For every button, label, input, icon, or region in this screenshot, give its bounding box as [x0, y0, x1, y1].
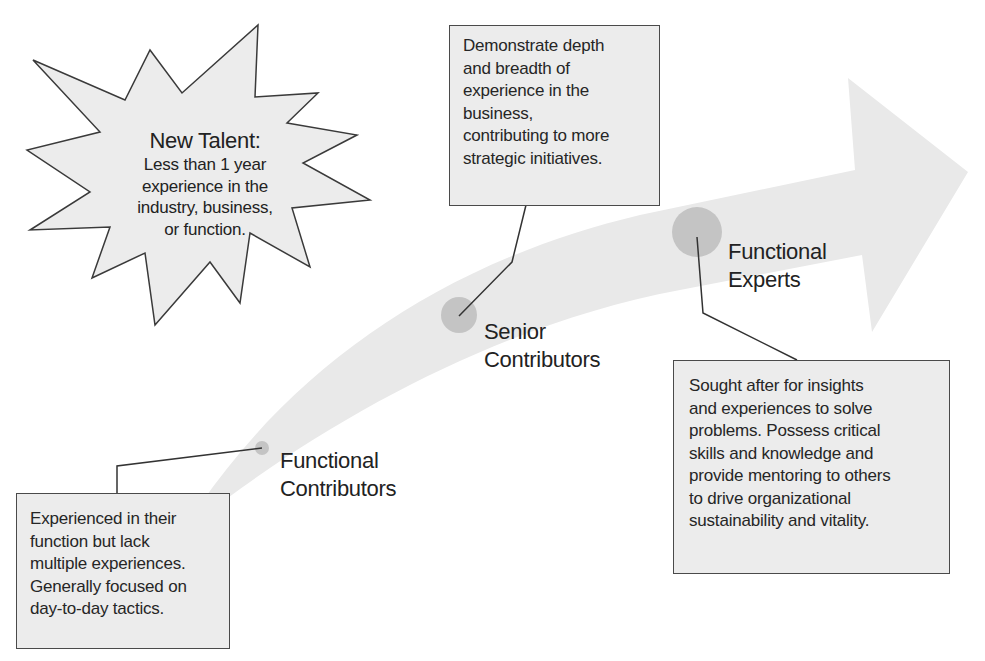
functional-experts-label: Functional Experts: [728, 238, 827, 294]
text-line: industry, business,: [105, 197, 305, 219]
text-line: multiple experiences.: [30, 553, 229, 576]
new-talent-title: New Talent:: [105, 128, 305, 154]
text-line: Less than 1 year: [105, 154, 305, 176]
text-line: skills and knowledge and: [689, 443, 949, 466]
text-line: to drive organizational: [689, 488, 949, 511]
text-line: Generally focused on: [30, 576, 229, 599]
text-line: Contributors: [484, 346, 600, 374]
new-talent-description: Less than 1 year experience in the indus…: [105, 154, 305, 240]
text-line: sustainability and vitality.: [689, 510, 949, 533]
text-line: function but lack: [30, 531, 229, 554]
text-line: Functional: [280, 447, 396, 475]
text-line: Contributors: [280, 475, 396, 503]
text-line: problems. Possess critical: [689, 420, 949, 443]
functional-contributors-description-box: Experienced in their function but lack m…: [16, 493, 230, 649]
text-line: strategic initiatives.: [463, 148, 659, 171]
functional-contributors-label: Functional Contributors: [280, 447, 396, 503]
text-line: and experiences to solve: [689, 398, 949, 421]
text-line: contributing to more: [463, 125, 659, 148]
text-line: business,: [463, 103, 659, 126]
text-line: Experts: [728, 266, 827, 294]
senior-contributors-label: Senior Contributors: [484, 318, 600, 374]
functional-experts-description-box: Sought after for insights and experience…: [673, 360, 950, 574]
text-line: Experienced in their: [30, 508, 229, 531]
node-functional-experts: [672, 207, 722, 257]
text-line: Demonstrate depth: [463, 35, 659, 58]
text-line: Senior: [484, 318, 600, 346]
text-line: Sought after for insights: [689, 375, 949, 398]
text-line: experience in the: [463, 80, 659, 103]
senior-contributors-description-box: Demonstrate depth and breadth of experie…: [449, 25, 660, 206]
text-line: or function.: [105, 219, 305, 241]
text-line: Functional: [728, 238, 827, 266]
text-line: day-to-day tactics.: [30, 598, 229, 621]
text-line: and breadth of: [463, 58, 659, 81]
new-talent-callout: New Talent: Less than 1 year experience …: [105, 128, 305, 240]
text-line: experience in the: [105, 176, 305, 198]
text-line: provide mentoring to others: [689, 465, 949, 488]
